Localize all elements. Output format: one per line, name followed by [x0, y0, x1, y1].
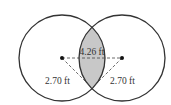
- center-distance-label: 4.26 ft: [80, 47, 105, 57]
- left-center-dot: [60, 56, 64, 60]
- left-radius-label: 2.70 ft: [45, 76, 70, 86]
- right-radius-label: 2.70 ft: [110, 76, 135, 86]
- diagram-canvas: 4.26 ft 2.70 ft 2.70 ft: [0, 0, 171, 105]
- right-center-dot: [120, 56, 124, 60]
